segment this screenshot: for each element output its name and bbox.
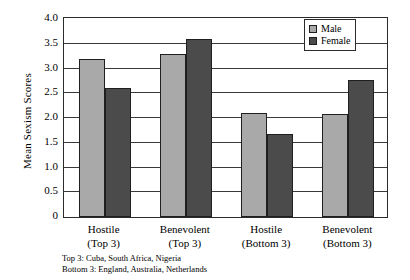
legend-label-female: Female bbox=[321, 36, 350, 46]
y-tick-label: 2.5 bbox=[18, 86, 58, 97]
legend-item-male: Male bbox=[309, 23, 350, 34]
legend: Male Female bbox=[304, 19, 356, 51]
y-tick-label: 4.0 bbox=[18, 12, 58, 23]
chart-footnotes: Top 3: Cuba, South Africa, Nigeria Botto… bbox=[62, 253, 207, 275]
bar-male-3 bbox=[322, 114, 348, 217]
legend-swatch-male-icon bbox=[309, 25, 317, 33]
x-category-line2: (Top 3) bbox=[63, 236, 144, 250]
legend-item-female: Female bbox=[309, 35, 350, 46]
y-tick-label: 3.0 bbox=[18, 62, 58, 73]
y-tick-label: 3.5 bbox=[18, 37, 58, 48]
x-category-line2: (Bottom 3) bbox=[307, 236, 388, 250]
bar-female-3 bbox=[348, 80, 374, 217]
bar-male-1 bbox=[160, 54, 186, 217]
x-category-label-2: Hostile(Bottom 3) bbox=[226, 222, 307, 250]
bar-female-2 bbox=[267, 134, 293, 217]
bar-female-1 bbox=[186, 39, 212, 217]
x-axis-category-labels: Hostile(Top 3)Benevolent(Top 3)Hostile(B… bbox=[63, 222, 388, 252]
x-category-line1: Hostile bbox=[226, 222, 307, 236]
legend-label-male: Male bbox=[321, 24, 342, 34]
x-category-line1: Benevolent bbox=[144, 222, 225, 236]
footnote-top-3: Top 3: Cuba, South Africa, Nigeria bbox=[62, 253, 207, 264]
x-category-label-1: Benevolent(Top 3) bbox=[144, 222, 225, 250]
x-category-line1: Benevolent bbox=[307, 222, 388, 236]
bar-female-0 bbox=[105, 88, 131, 217]
footnote-bottom-3: Bottom 3: England, Australia, Netherland… bbox=[62, 264, 207, 275]
y-tick-label: 1.0 bbox=[18, 161, 58, 172]
x-category-label-3: Benevolent(Bottom 3) bbox=[307, 222, 388, 250]
x-category-line2: (Top 3) bbox=[144, 236, 225, 250]
bar-male-2 bbox=[241, 113, 267, 217]
x-category-label-0: Hostile(Top 3) bbox=[63, 222, 144, 250]
x-category-line2: (Bottom 3) bbox=[226, 236, 307, 250]
x-category-line1: Hostile bbox=[63, 222, 144, 236]
bar-male-0 bbox=[79, 59, 105, 217]
y-tick-label: 0.5 bbox=[18, 185, 58, 196]
y-tick-label: 0 bbox=[18, 210, 58, 221]
legend-swatch-female-icon bbox=[309, 37, 317, 45]
y-tick-label: 2.0 bbox=[18, 111, 58, 122]
y-tick-label: 1.5 bbox=[18, 136, 58, 147]
bar-chart-figure: Mean Sexism Scores 4.03.53.02.52.01.51.0… bbox=[0, 0, 410, 280]
